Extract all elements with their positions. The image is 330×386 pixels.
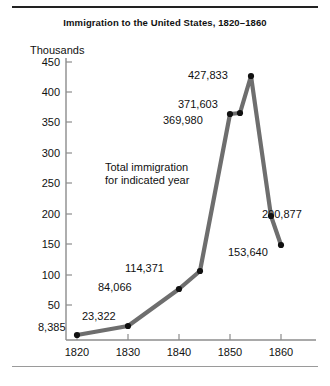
y-tick-label: 400 <box>26 86 60 98</box>
data-point-label: 371,603 <box>178 98 218 110</box>
y-tick-label: 100 <box>26 269 60 281</box>
data-point-label: 84,066 <box>98 281 132 293</box>
chart-annotation-line-1: Total immigration <box>105 161 189 174</box>
chart-annotation: Total immigration for indicated year <box>105 161 189 187</box>
chart-annotation-line-2: for indicated year <box>105 174 189 187</box>
data-point-label: 200,877 <box>262 208 302 220</box>
x-tick-label: 1860 <box>259 346 303 358</box>
x-tick-label: 1830 <box>106 346 150 358</box>
y-tick-label: 50 <box>26 299 60 311</box>
y-tick-label: 250 <box>26 177 60 189</box>
data-point-label: 369,980 <box>163 114 203 126</box>
y-tick-label: 450 <box>26 56 60 68</box>
data-point-markers <box>74 73 284 338</box>
data-point-label: 153,640 <box>228 246 268 258</box>
data-point-label: 427,833 <box>188 69 228 81</box>
y-axis-ticks <box>66 62 72 305</box>
data-point-label: 8,385 <box>38 321 66 333</box>
y-tick-label: 200 <box>26 208 60 220</box>
data-point-label: 23,322 <box>82 310 116 322</box>
x-axis-ticks <box>77 334 281 340</box>
figure-container: Immigration to the United States, 1820–1… <box>0 0 330 386</box>
x-tick-label: 1850 <box>208 346 252 358</box>
x-tick-label: 1820 <box>55 346 99 358</box>
y-tick-label: 300 <box>26 147 60 159</box>
data-point-label: 114,371 <box>125 262 164 274</box>
y-tick-label: 150 <box>26 238 60 250</box>
y-tick-label: 350 <box>26 116 60 128</box>
x-tick-label: 1840 <box>157 346 201 358</box>
